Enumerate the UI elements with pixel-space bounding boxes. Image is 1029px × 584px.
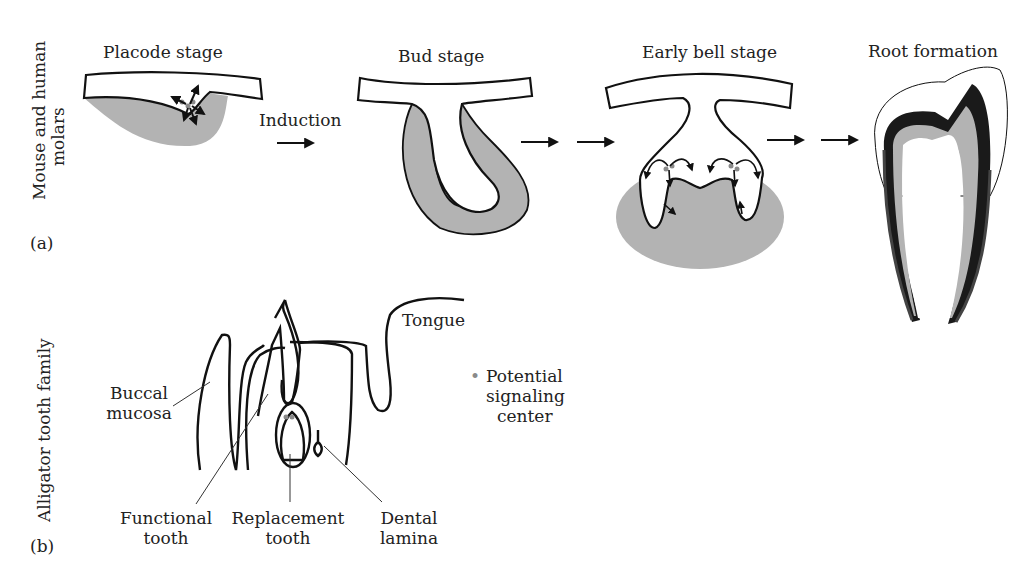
bud-stage-drawing: [358, 78, 532, 234]
diagram-graphics: [0, 0, 1029, 584]
root-formation-drawing: [875, 67, 1008, 324]
placode-stage-drawing: [84, 72, 262, 146]
early-bell-stage-drawing: [606, 74, 792, 269]
alligator-tooth-family-drawing: [198, 298, 464, 470]
